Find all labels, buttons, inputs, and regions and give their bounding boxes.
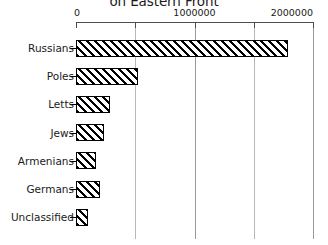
x-axis-tick — [254, 22, 255, 28]
y-axis-labels-group: RussiansPolesLettsJewsArmeniansGermansUn… — [0, 0, 74, 245]
bar-chart: on Eastern Front 010000002000000 Russian… — [0, 0, 328, 245]
bar — [76, 152, 96, 169]
y-axis-category-label: Germans — [2, 183, 74, 195]
x-axis-tick-label: 2000000 — [271, 7, 313, 18]
y-axis-category-label: Armenians — [2, 155, 74, 167]
x-axis-tick — [135, 22, 136, 28]
y-axis-category-label: Poles — [2, 70, 74, 82]
gridline — [313, 22, 314, 239]
x-axis-tick-label: 0 — [74, 7, 80, 18]
y-axis-category-label: Jews — [2, 127, 74, 139]
bar — [76, 124, 104, 141]
y-axis-category-label: Russians — [2, 42, 74, 54]
y-axis-category-label: Letts — [2, 98, 74, 110]
bar — [76, 40, 288, 57]
bar — [76, 181, 100, 198]
x-axis-tick — [76, 22, 77, 28]
y-axis-category-label: Unclassified — [2, 211, 74, 223]
bar — [76, 96, 110, 113]
bar — [76, 209, 88, 226]
x-axis-tick — [195, 22, 196, 28]
x-axis-tick — [313, 22, 314, 28]
x-axis-tick-label: 1000000 — [173, 7, 215, 18]
bar — [76, 68, 138, 85]
